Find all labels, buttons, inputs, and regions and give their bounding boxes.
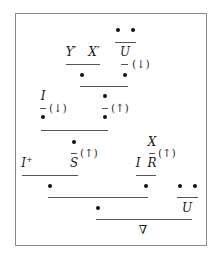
bullet-final-premise: [96, 206, 100, 210]
node-i-plus: I+: [21, 157, 32, 169]
annotation-down-arrow: (↓): [132, 59, 150, 70]
node-x: X: [148, 136, 157, 148]
rule-top-right: [115, 42, 136, 43]
node-s: S: [70, 157, 78, 169]
rule-i-plus-s: [22, 175, 78, 176]
rule-yx: [66, 64, 100, 65]
rule-i-r: [136, 175, 156, 176]
bullet-mid-right-premise: [103, 94, 107, 98]
rule-bottom-right: [177, 197, 198, 198]
bullet-lower-right: [144, 184, 148, 188]
bullet-yx-conclusion: [80, 73, 84, 77]
bullet-i-conclusion: [41, 115, 45, 119]
rule-i-short: [40, 108, 46, 109]
node-u-top: U: [120, 46, 130, 58]
bullet-u-conclusion: [123, 73, 127, 77]
node-u-bottom: U: [182, 202, 192, 214]
node-i-lower: I: [136, 157, 141, 169]
annotation-up-arrow-mid: (↑): [111, 103, 129, 114]
rule-final: [96, 219, 192, 220]
bullet-mid-right-conclusion: [103, 115, 107, 119]
node-x-prime: X′: [88, 46, 99, 58]
bullet-top-right-b: [131, 28, 135, 32]
bullet-lower-left: [48, 184, 52, 188]
node-i-plus-sup: +: [26, 155, 33, 164]
annotation-down-arrow-i: (↓): [49, 103, 67, 114]
bullet-s-premise: [72, 140, 76, 144]
rule-u-short: [121, 64, 128, 65]
annotation-up-arrow-r: (↑): [158, 148, 176, 159]
rule-join-lower: [48, 197, 148, 198]
rule-mid-right-short: [102, 108, 108, 109]
node-r: R: [147, 157, 156, 169]
node-conclusion-nabla: ∇: [139, 224, 147, 236]
rule-x-short: [149, 153, 155, 154]
rule-join-top: [80, 86, 128, 87]
annotation-up-arrow-s: (↑): [80, 148, 98, 159]
bullet-bottom-right-b: [193, 184, 197, 188]
bullet-top-right-a: [116, 28, 120, 32]
node-i-mid: I: [41, 90, 46, 102]
rule-join-mid: [41, 130, 108, 131]
node-y-prime: Y′: [66, 46, 77, 58]
rule-s-short: [71, 153, 77, 154]
bullet-bottom-right-a: [178, 184, 182, 188]
